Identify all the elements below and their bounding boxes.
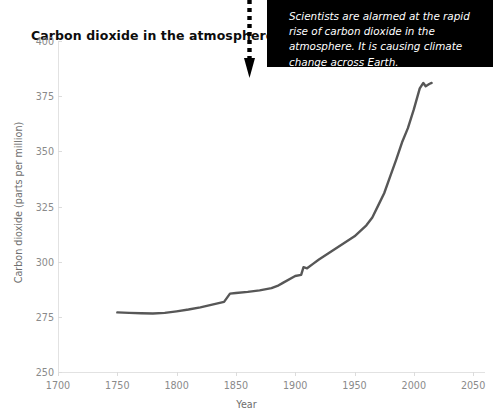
y-tick-label: 400	[22, 36, 54, 47]
x-tick-label: 1800	[164, 380, 188, 391]
x-tick-label: 1950	[342, 380, 366, 391]
y-tick-label: 375	[22, 91, 54, 102]
co2-chart-figure: Carbon dioxide in the atmosphere 2502753…	[0, 0, 493, 418]
x-tick-mark	[473, 372, 474, 376]
y-tick-label: 300	[22, 256, 54, 267]
x-tick-mark	[177, 372, 178, 376]
y-axis-title: Carbon dioxide (parts per million)	[13, 103, 24, 303]
callout-pointer-arrow	[244, 0, 256, 80]
y-tick-mark	[58, 262, 62, 263]
y-tick-label: 325	[22, 201, 54, 212]
y-tick-label: 350	[22, 146, 54, 157]
y-tick-mark	[58, 317, 62, 318]
x-tick-mark	[414, 372, 415, 376]
x-tick-label: 2050	[461, 380, 485, 391]
co2-line-path	[117, 83, 431, 314]
x-tick-label: 1900	[283, 380, 307, 391]
y-tick-mark	[58, 207, 62, 208]
x-axis-title: Year	[0, 399, 493, 410]
annotation-text: Scientists are alarmed at the rapid rise…	[289, 9, 487, 70]
x-tick-mark	[295, 372, 296, 376]
arrowhead-icon	[244, 58, 255, 78]
y-tick-mark	[58, 151, 62, 152]
x-tick-mark	[117, 372, 118, 376]
x-tick-mark	[236, 372, 237, 376]
x-tick-mark	[355, 372, 356, 376]
y-tick-label: 275	[22, 311, 54, 322]
y-tick-mark	[58, 96, 62, 97]
x-tick-mark	[58, 372, 59, 376]
x-tick-label: 1850	[224, 380, 248, 391]
y-tick-label: 250	[22, 367, 54, 378]
page-title: Carbon dioxide in the atmosphere	[31, 28, 274, 43]
annotation-callout: Scientists are alarmed at the rapid rise…	[267, 0, 493, 67]
x-tick-label: 2000	[402, 380, 426, 391]
x-tick-label: 1700	[46, 380, 70, 391]
x-axis-line	[58, 372, 485, 373]
x-tick-label: 1750	[105, 380, 129, 391]
y-tick-mark	[58, 41, 62, 42]
